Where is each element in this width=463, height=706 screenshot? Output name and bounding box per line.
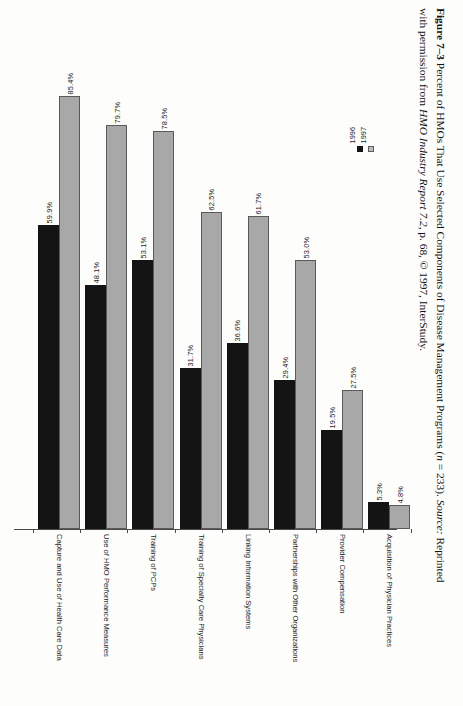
figure-number: Figure 7–3 <box>435 8 447 60</box>
bar-value-label: 78.5% <box>160 108 167 129</box>
bar-group: 19.5%27.5% <box>321 22 363 529</box>
bar-value-label: 48.1% <box>92 262 99 283</box>
bar-group: 36.6%61.7% <box>227 22 269 529</box>
figure-caption-text-d: , p. 68, © 1997, InterStudy. <box>418 227 430 351</box>
bar-group: 53.1%78.5% <box>132 22 174 529</box>
axis-tick <box>80 529 81 533</box>
legend-label-1997: 1997 <box>360 127 367 143</box>
category-label-5: Partnerships with Other Organizations <box>291 534 299 662</box>
axis-tick <box>269 529 270 533</box>
figure-caption-line-1: Figure 7–3 Percent of HMOs That Use Sele… <box>435 8 446 582</box>
bar-value-label: 19.5% <box>328 407 335 428</box>
black-square-icon <box>357 146 363 152</box>
axis-tick <box>363 529 364 533</box>
bar-group: 29.4%53.0% <box>274 22 316 529</box>
bar-1996-2[interactable]: 53.1% <box>132 260 153 529</box>
axis-tick <box>316 529 317 533</box>
figure-caption-publication: HMO Industry Report 7.2 <box>418 109 430 227</box>
bar-1997-2[interactable]: 78.5% <box>153 131 174 529</box>
axis-tick <box>127 529 128 533</box>
figure-caption-text-a: Percent of HMOs That Use Selected Compon… <box>435 60 447 455</box>
x-axis-baseline <box>14 529 397 530</box>
chart-legend: 1996 1997 <box>356 106 396 152</box>
bar-1997-4[interactable]: 61.7% <box>248 216 269 529</box>
bar-group: 5.3%4.8% <box>368 22 410 529</box>
bar-value-label: 27.5% <box>349 367 356 388</box>
figure-caption-source-label: Source: <box>435 500 447 535</box>
bar-value-label: 59.9% <box>45 202 52 223</box>
category-label-6: Provider Compensation <box>339 534 347 613</box>
axis-tick <box>175 529 176 533</box>
bar-1997-1[interactable]: 79.7% <box>106 125 127 529</box>
figure-caption-n-value: = 233). <box>435 461 447 500</box>
bar-1996-5[interactable]: 29.4% <box>274 380 295 529</box>
bar-1997-0[interactable]: 85.4% <box>59 96 80 529</box>
bar-1997-7[interactable]: 4.8% <box>389 505 410 529</box>
bar-value-label: 79.7% <box>113 102 120 123</box>
bar-value-label: 36.6% <box>234 320 241 341</box>
bar-value-label: 53.0% <box>302 237 309 258</box>
bar-value-label: 5.3% <box>375 483 382 500</box>
category-label-2: Training of PCPs <box>150 534 158 591</box>
chart-plot-area: 59.9%85.4%48.1%79.7%53.1%78.5%31.7%62.5%… <box>14 22 404 530</box>
bar-1996-7[interactable]: 5.3% <box>368 502 389 529</box>
bar-1996-1[interactable]: 48.1% <box>85 285 106 529</box>
axis-tick <box>33 529 34 533</box>
category-axis-labels: Capture and Use of Health Care DataUse o… <box>14 534 404 702</box>
legend-item-1997[interactable]: 1997 <box>367 106 383 152</box>
figure-caption-text-b: Reprinted <box>435 535 447 583</box>
bar-value-label: 62.5% <box>208 189 215 210</box>
bar-value-label: 61.7% <box>255 193 262 214</box>
bar-1996-3[interactable]: 31.7% <box>180 368 201 529</box>
bars-layer: 59.9%85.4%48.1%79.7%53.1%78.5%31.7%62.5%… <box>14 22 404 530</box>
bar-1996-0[interactable]: 59.9% <box>38 225 59 529</box>
bar-value-label: 85.4% <box>66 73 73 94</box>
bar-value-label: 29.4% <box>281 357 288 378</box>
category-label-4: Linking Information Systems <box>244 534 252 629</box>
bar-group: 31.7%62.5% <box>180 22 222 529</box>
bar-1997-3[interactable]: 62.5% <box>201 212 222 529</box>
bar-1997-6[interactable]: 27.5% <box>342 390 363 529</box>
bar-group: 59.9%85.4% <box>38 22 80 529</box>
category-label-7: Acquisition of Physician Practices <box>386 534 394 647</box>
bar-value-label: 4.8% <box>396 486 403 503</box>
category-label-1: Use of HMO Performance Measures <box>103 534 111 657</box>
gray-square-icon <box>368 146 374 152</box>
figure-caption-line-2: with permission from HMO Industry Report… <box>418 8 429 351</box>
bar-1996-6[interactable]: 19.5% <box>321 430 342 529</box>
figure-caption: Figure 7–3 Percent of HMOs That Use Sele… <box>412 8 456 698</box>
figure-page: 59.9%85.4%48.1%79.7%53.1%78.5%31.7%62.5%… <box>0 0 463 706</box>
category-label-0: Capture and Use of Health Care Data <box>55 534 63 661</box>
figure-caption-text-c: with permission from <box>418 8 430 109</box>
bar-1996-4[interactable]: 36.6% <box>227 343 248 529</box>
axis-tick <box>222 529 223 533</box>
bar-value-label: 31.7% <box>187 345 194 366</box>
bar-value-label: 53.1% <box>139 237 146 258</box>
bar-1997-5[interactable]: 53.0% <box>295 260 316 529</box>
bar-group: 48.1%79.7% <box>85 22 127 529</box>
category-label-3: Training of Specialty Care Physicians <box>197 534 205 660</box>
legend-label-1996: 1996 <box>349 127 356 143</box>
